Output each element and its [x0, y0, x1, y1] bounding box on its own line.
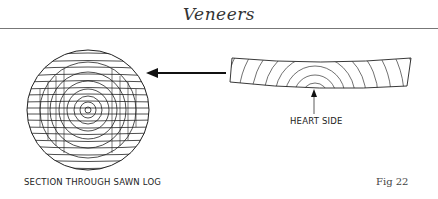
heart-side-label: HEART SIDE [290, 116, 343, 126]
arrow-left-icon [146, 68, 226, 78]
diagram-canvas [0, 0, 438, 199]
figure-number: Fig 22 [376, 176, 408, 187]
sawn-log-icon [20, 50, 156, 170]
veneer-strip-icon [213, 0, 417, 198]
log-caption: SECTION THROUGH SAWN LOG [24, 177, 161, 187]
arrow-up-icon [311, 89, 317, 114]
